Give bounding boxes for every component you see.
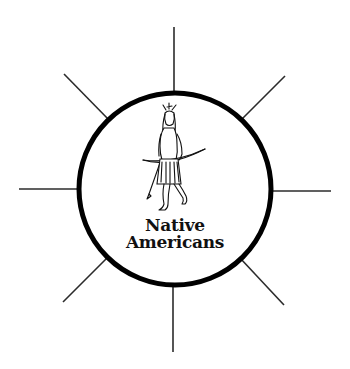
spoke-north-east (240, 76, 285, 121)
spoke-south-west (63, 257, 108, 302)
spoke-north-west (64, 74, 110, 121)
hub-label-line-2: Americans (100, 233, 250, 251)
hub-and-spoke-diagram (0, 0, 350, 369)
spoke-south-east (240, 258, 284, 305)
